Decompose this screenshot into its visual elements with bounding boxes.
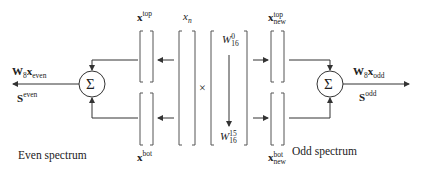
twiddle-top-label: W016	[222, 33, 239, 47]
right-sum-symbol: Σ	[324, 77, 333, 92]
right-bot-feed-line	[289, 98, 330, 118]
x-new-top-bracket	[271, 31, 284, 82]
x-new-bot-label: xbotnew	[268, 151, 286, 165]
x-new-top-label: xtopnew	[268, 11, 286, 25]
x-bot-label: xbot	[137, 152, 152, 163]
twiddle-bottom-label: W1516	[220, 130, 237, 144]
x-top-bracket	[140, 31, 153, 82]
left-bot-feed-line	[92, 98, 138, 118]
xn-label: xn	[183, 11, 192, 22]
odd-spectrum-caption: Odd spectrum	[292, 146, 357, 158]
left-top-feed-line	[92, 60, 138, 70]
left-output-label: W8xeven	[12, 66, 46, 77]
left-sum-symbol: Σ	[86, 77, 95, 92]
multiply-symbol: ×	[199, 82, 206, 94]
xn-bracket	[179, 31, 195, 145]
even-spectrum-caption: Even spectrum	[18, 150, 87, 162]
right-spectrum-label: Sodd	[359, 92, 376, 103]
right-top-feed-line	[289, 60, 330, 70]
left-spectrum-label: Seven	[17, 93, 37, 104]
diagram-canvas	[0, 0, 426, 174]
right-output-label: W8xodd	[353, 66, 385, 77]
x-bot-bracket	[140, 93, 153, 145]
x-new-bot-bracket	[271, 93, 284, 145]
x-top-label: xtop	[137, 12, 152, 23]
